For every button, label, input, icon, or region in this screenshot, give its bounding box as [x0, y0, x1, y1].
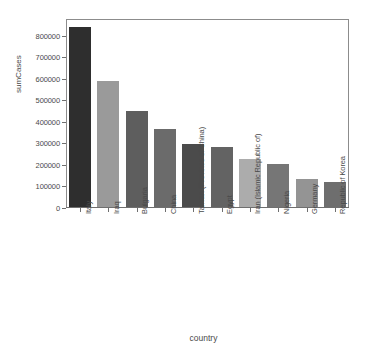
y-axis-tick: 700000: [0, 53, 66, 63]
y-axis-tick: 400000: [0, 117, 66, 127]
y-axis-tick: 0: [0, 203, 66, 213]
y-axis-tick-label: 500000: [36, 96, 60, 105]
y-axis-tick: 800000: [0, 31, 66, 41]
x-axis-tick-label: Taiwan (Province of China): [197, 127, 206, 214]
x-axis-tick-label: Egypt: [225, 195, 234, 214]
x-axis-tick-label: Italy: [84, 201, 93, 214]
x-axis-tick-label: Nigeria: [282, 191, 291, 214]
x-axis-tick-mark: [335, 208, 336, 212]
y-axis-tick-label: 100000: [36, 182, 60, 191]
y-axis-title: sumCases: [14, 55, 23, 93]
x-axis-tick-mark: [165, 208, 166, 212]
x-axis-tick-mark: [278, 208, 279, 212]
x-axis-tick-label: Iraq: [112, 201, 121, 214]
x-axis-tick-mark: [108, 208, 109, 212]
x-axis-tick-mark: [137, 208, 138, 212]
bar: [69, 27, 91, 208]
y-axis-tick-label: 300000: [36, 139, 60, 148]
x-axis-tick-mark: [193, 208, 194, 212]
y-axis-tick-label: 200000: [36, 161, 60, 170]
y-axis-tick: 100000: [0, 182, 66, 192]
x-axis-tick-label: Republic of Korea: [338, 156, 347, 214]
y-axis-tick: 600000: [0, 74, 66, 84]
y-axis-tick: 200000: [0, 160, 66, 170]
y-axis-tick-label: 400000: [36, 118, 60, 127]
x-axis-tick-label: China: [169, 195, 178, 214]
bars-layer: [66, 19, 349, 208]
x-axis-tick-label: Bulgaria: [140, 187, 149, 214]
x-axis-tick-label: Iran (Islamic Republic of): [253, 134, 262, 214]
y-axis-tick-label: 800000: [36, 32, 60, 41]
x-axis-tick-mark: [250, 208, 251, 212]
bar: [97, 81, 119, 208]
x-axis-tick-label: Germany: [310, 184, 319, 214]
y-axis-tick-label: 0: [56, 204, 60, 213]
y-axis-tick-label: 600000: [36, 75, 60, 84]
y-axis-tick: 500000: [0, 96, 66, 106]
x-axis-tick-mark: [80, 208, 81, 212]
bar-chart: 0100000200000300000400000500000600000700…: [0, 0, 366, 358]
x-axis-tick-mark: [222, 208, 223, 212]
y-axis-tick-label: 700000: [36, 53, 60, 62]
x-axis-tick-mark: [307, 208, 308, 212]
x-axis-title: country: [190, 333, 218, 343]
y-axis-tick: 300000: [0, 139, 66, 149]
